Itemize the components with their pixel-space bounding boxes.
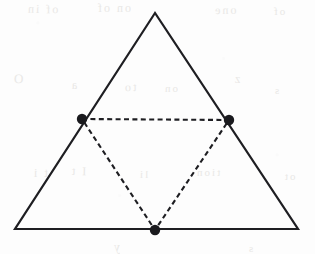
dot-midpoint-bottom: [150, 225, 160, 235]
figure-page: of inon ofoneofOatoonzst iI tlitionotys: [0, 0, 315, 254]
medial-triangle: [82, 119, 229, 230]
dot-midpoint-right: [224, 115, 234, 125]
outer-triangle: [15, 13, 298, 229]
geometry-figure: [0, 0, 315, 254]
dot-midpoint-left: [77, 114, 87, 124]
